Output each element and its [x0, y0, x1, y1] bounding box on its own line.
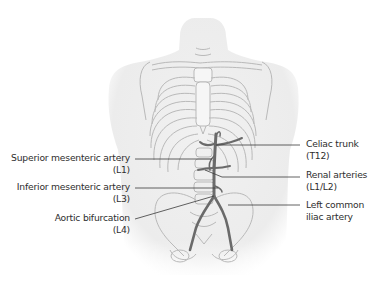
label-inferior-mesenteric-artery: Inferior mesenteric artery (L3): [17, 181, 130, 204]
label-aortic-bifurcation: Aortic bifurcation (L4): [55, 212, 130, 235]
label-name: Left common: [306, 199, 364, 211]
body-silhouette: [100, 18, 300, 288]
label-level: (L1): [11, 164, 130, 176]
label-name: Inferior mesenteric artery: [17, 181, 130, 193]
label-name: Renal arteries: [306, 169, 367, 181]
label-level: (L1/L2): [306, 181, 367, 193]
label-level: iliac artery: [306, 211, 364, 223]
label-superior-mesenteric-artery: Superior mesenteric artery (L1): [11, 152, 130, 175]
label-level: (L4): [55, 224, 130, 236]
label-left-common-iliac-artery: Left common iliac artery: [306, 199, 364, 222]
label-name: Aortic bifurcation: [55, 212, 130, 224]
label-name: Celiac trunk: [306, 138, 359, 150]
anatomy-figure: Superior mesenteric artery (L1) Inferior…: [0, 0, 379, 288]
label-level: (T12): [306, 150, 359, 162]
label-renal-arteries: Renal arteries (L1/L2): [306, 169, 367, 192]
label-level: (L3): [17, 193, 130, 205]
label-name: Superior mesenteric artery: [11, 152, 130, 164]
label-celiac-trunk: Celiac trunk (T12): [306, 138, 359, 161]
